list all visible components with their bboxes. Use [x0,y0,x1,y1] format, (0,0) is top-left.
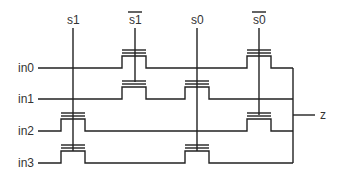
label-in1: in1 [18,92,34,106]
label-s1: s1 [67,13,80,27]
label-in2: in2 [18,124,34,138]
input-wire-in1 [38,87,293,99]
label-in0: in0 [18,61,34,75]
input-wire-in3 [38,151,293,163]
label-z: z [320,108,326,122]
input-wire-in2 [38,119,293,131]
label-s0: s0 [191,13,204,27]
label-s1-bar: s1 [129,13,142,27]
input-wire-in0 [38,56,293,68]
mux-diagram: s1 s1 s0 s0 in0 in1 in2 in3 z [0,0,340,181]
label-in3: in3 [18,156,34,170]
label-s0-bar: s0 [253,13,266,27]
